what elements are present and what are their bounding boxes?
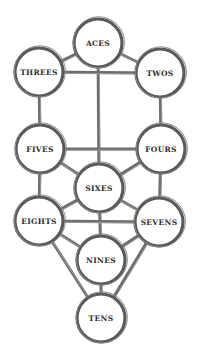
node-label-fours: FOURS	[145, 145, 177, 154]
node-label-nines: NINES	[86, 256, 116, 265]
node-label-twos: TWOS	[146, 69, 173, 78]
tree-diagram	[0, 0, 198, 357]
node-label-fives: FIVES	[26, 145, 53, 154]
node-label-aces: ACES	[86, 39, 110, 48]
node-label-eights: EIGHTS	[21, 217, 57, 226]
node-label-threes: THREES	[20, 68, 58, 77]
node-label-sevens: SEVENS	[141, 218, 178, 227]
node-label-sixes: SIXES	[85, 184, 112, 193]
node-label-tens: TENS	[89, 314, 114, 323]
